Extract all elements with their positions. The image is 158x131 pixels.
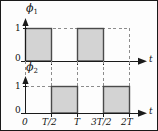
phi1-pulse-2 bbox=[78, 29, 104, 62]
phi1-pulse-1 bbox=[26, 29, 52, 62]
bottom-x-axis-arrowhead bbox=[138, 110, 147, 117]
x-tick-label-3t-half: 3T/2 bbox=[91, 118, 112, 127]
top-y-tick-label-zero: 0 bbox=[15, 54, 21, 63]
top-y-axis-arrowhead bbox=[22, 18, 28, 26]
bottom-y-axis-arrowhead bbox=[22, 76, 28, 84]
phi1-axis-label: ϕ1 bbox=[26, 3, 38, 16]
bottom-x-axis-label: t bbox=[149, 107, 153, 116]
top-y-tick-label-one: 1 bbox=[15, 24, 21, 33]
phi2-symbol: ϕ bbox=[26, 61, 34, 74]
figure-container: ϕ1 1 0 t ϕ2 1 0 t 0 T/2 T 3T/2 2T bbox=[0, 0, 158, 131]
phi2-subscript: 2 bbox=[34, 67, 38, 75]
phi1-subscript: 1 bbox=[34, 8, 38, 16]
x-tick-label-0: 0 bbox=[22, 118, 28, 127]
phi1-symbol: ϕ bbox=[26, 2, 34, 15]
plot-bottom-phi2 bbox=[21, 61, 147, 117]
x-tick-label-2t: 2T bbox=[121, 118, 133, 127]
top-x-axis-arrowhead bbox=[138, 58, 147, 65]
plot-top-phi1 bbox=[21, 18, 147, 65]
phi2-axis-label: ϕ2 bbox=[26, 62, 38, 75]
top-x-axis-label: t bbox=[149, 55, 153, 64]
bottom-y-axis bbox=[22, 76, 28, 113]
waveform-svg bbox=[1, 1, 158, 131]
phi2-pulse-2 bbox=[104, 87, 130, 114]
x-tick-label-t: T bbox=[74, 118, 80, 127]
x-tick-label-t-half: T/2 bbox=[42, 118, 57, 127]
bottom-y-tick-label-zero: 0 bbox=[15, 106, 21, 115]
phi2-pulse-1 bbox=[52, 87, 78, 114]
bottom-y-tick-label-one: 1 bbox=[15, 82, 21, 91]
